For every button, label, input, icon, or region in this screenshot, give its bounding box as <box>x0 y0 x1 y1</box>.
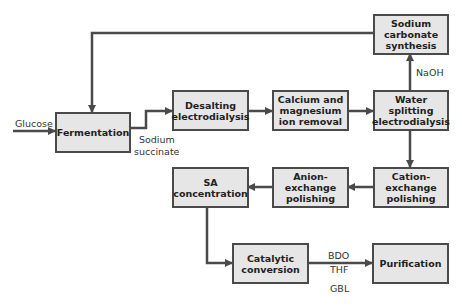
label-thf: THF <box>330 264 348 275</box>
label-gbl: GBL <box>330 283 349 294</box>
label-glucose: Glucose <box>15 118 53 129</box>
label-sodium: Sodium <box>139 134 175 145</box>
node-sodium-carbonate-synthesis: Sodium carbonate synthesis <box>373 14 449 55</box>
node-catalytic-conversion: Catalytic conversion <box>232 243 309 284</box>
edge-fermentation-desalting <box>130 111 172 128</box>
edge-saconc-catalytic <box>207 207 232 263</box>
node-desalting-electrodialysis: Desalting electrodialysis <box>172 90 249 131</box>
label-naoh: NaOH <box>416 67 444 78</box>
node-anion-exchange-polishing: Anion-exchange polishing <box>272 167 349 208</box>
node-purification: Purification <box>372 243 449 284</box>
label-bdo: BDO <box>328 250 349 261</box>
node-sa-concentration: SA concentration <box>172 167 249 208</box>
node-calcium-magnesium-removal: Calcium and magnesium ion removal <box>272 90 349 131</box>
node-water-splitting-electrodialysis: Water splitting electrodialysis <box>373 90 449 131</box>
label-succinate: succinate <box>134 146 179 157</box>
node-cation-exchange-polishing: Cation-exchange polishing <box>373 167 449 208</box>
node-fermentation: Fermentation <box>55 112 131 153</box>
